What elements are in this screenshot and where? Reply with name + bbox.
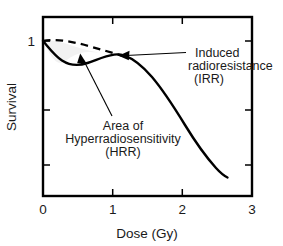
x-tick-label-2: 2 [179, 202, 187, 217]
hrs-annotation-line-3: (HRR) [105, 145, 140, 159]
x-tick-label-0: 0 [39, 202, 47, 217]
y-axis-title: Survival [4, 83, 19, 131]
survival-curve-figure: 1 0 1 2 3 Dose (Gy) Survival Induced rad… [0, 0, 283, 246]
hrs-arrowhead [77, 54, 86, 64]
x-axis-title: Dose (Gy) [116, 226, 178, 241]
irr-annotation-line-3: (IRR) [194, 72, 224, 86]
irr-leader-line [126, 53, 186, 56]
plot-frame [43, 17, 252, 196]
irr-annotation-line-2: radioresistance [188, 59, 273, 73]
x-tick-label-1: 1 [109, 202, 117, 217]
chart-canvas: 1 0 1 2 3 Dose (Gy) Survival Induced rad… [0, 0, 283, 246]
hrs-annotation-line-1: Area of [103, 119, 144, 133]
irr-arrowhead [119, 51, 130, 60]
irr-annotation-line-1: Induced [195, 46, 240, 60]
y-tick-label-1: 1 [27, 34, 35, 49]
x-tick-label-3: 3 [248, 202, 256, 217]
hrs-leader-line [84, 61, 112, 116]
hrs-annotation-line-2: Hyperradiosensitivity [65, 132, 181, 146]
